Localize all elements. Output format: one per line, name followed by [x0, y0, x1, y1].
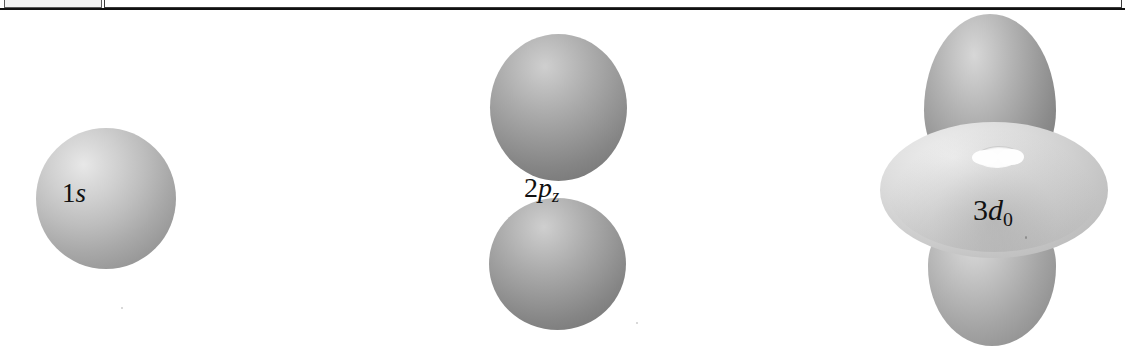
orbital-3d0-label-letter: d — [988, 193, 1003, 226]
orbital-2pz-label-subscript: z — [552, 186, 559, 206]
orbital-2pz-label-n: 2 — [524, 172, 538, 203]
orbital-2pz-top-lobe — [490, 34, 627, 181]
orbital-3d0-label: 3d0 — [973, 193, 1013, 231]
orbital-3d0-torus-hole-left — [972, 150, 998, 165]
orbital-1s-label-n: 1 — [62, 178, 76, 208]
orbital-1s-lobe — [36, 128, 176, 269]
browser-chrome: p://www.mathcurve.com/websmathematical/h… — [0, 0, 1125, 12]
print-speck — [1025, 236, 1027, 239]
orbital-3d0-torus-hole-right — [998, 149, 1024, 165]
orbital-3d0 — [880, 14, 1110, 344]
orbital-1s — [36, 128, 176, 269]
orbital-2pz-label: 2pz — [524, 172, 559, 207]
orbital-1s-label: 1s — [62, 178, 86, 209]
print-speck — [121, 307, 123, 309]
address-bar-label — [4, 0, 102, 8]
orbital-2pz-bottom-lobe — [489, 198, 626, 330]
orbital-3d0-label-subscript: 0 — [1003, 208, 1013, 230]
orbital-2pz-label-letter: p — [538, 172, 552, 203]
orbital-figure: 1s 2pz 3d0 — [0, 0, 1125, 352]
print-speck — [636, 322, 638, 324]
orbital-1s-label-letter: s — [76, 178, 87, 208]
orbital-3d0-label-n: 3 — [973, 193, 988, 226]
address-bar-url-text[interactable]: p://www.mathcurve.com/websmathematical/h… — [116, 0, 648, 3]
